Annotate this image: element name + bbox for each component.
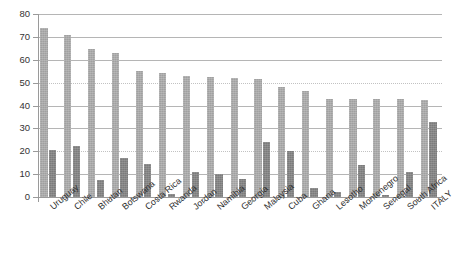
bar-group [231,14,247,197]
bar-series-1 [349,99,356,197]
bar-series-2 [310,188,317,197]
y-tick-label-0: 0 [0,192,30,202]
y-tick-mark-80 [33,14,38,15]
bar-group [326,14,342,197]
bar-series-1 [207,77,214,197]
y-tick-mark-30 [33,128,38,129]
x-tick-mark [276,198,277,202]
bar-group [373,14,389,197]
x-tick-mark [62,198,63,202]
y-tick-mark-60 [33,60,38,61]
bar-series-1 [254,79,261,197]
y-tick-mark-10 [33,174,38,175]
y-tick-label-50: 50 [0,78,30,88]
bar-series-1 [326,99,333,197]
bar-series-1 [183,76,190,197]
y-tick-label-20: 20 [0,146,30,156]
bar-series-1 [159,73,166,197]
bar-group [40,14,56,197]
bar-series-1 [421,100,428,197]
x-tick-mark [109,198,110,202]
bar-group [207,14,223,197]
bar-series-1 [373,99,380,197]
x-tick-mark [347,198,348,202]
x-tick-mark [204,198,205,202]
bar-group [88,14,104,197]
bar-group [349,14,365,197]
x-tick-mark [38,198,39,202]
bar-series-1 [88,49,95,197]
bar-series-1 [64,35,71,197]
x-tick-mark [371,198,372,202]
x-tick-mark [442,198,443,202]
bar-group [278,14,294,197]
bar-series-2 [97,180,104,197]
y-tick-label-70: 70 [0,32,30,42]
x-tick-mark [299,198,300,202]
x-axis-line [38,197,442,198]
x-tick-mark [228,198,229,202]
x-tick-mark [133,198,134,202]
bar-series-2 [49,150,56,197]
bar-group [64,14,80,197]
y-tick-mark-70 [33,37,38,38]
x-tick-mark [418,198,419,202]
y-tick-label-10: 10 [0,169,30,179]
x-tick-mark [323,198,324,202]
x-tick-mark [252,198,253,202]
bar-group [421,14,437,197]
x-tick-mark [181,198,182,202]
y-tick-mark-20 [33,151,38,152]
x-tick-mark [86,198,87,202]
bar-group [112,14,128,197]
y-tick-label-60: 60 [0,55,30,65]
bar-series-1 [40,28,47,197]
bar-group [159,14,175,197]
bar-group [254,14,270,197]
y-tick-label-40: 40 [0,101,30,111]
y-tick-mark-40 [33,106,38,107]
y-axis-line [38,14,39,198]
bar-series-1 [231,78,238,197]
bar-series-1 [112,53,119,197]
bar-series-1 [278,87,285,197]
x-tick-mark [395,198,396,202]
bar-group [397,14,413,197]
bar-series-1 [302,91,309,197]
bar-series-1 [136,71,143,197]
bar-group [136,14,152,197]
x-tick-mark [157,198,158,202]
y-tick-label-80: 80 [0,9,30,19]
y-tick-label-30: 30 [0,123,30,133]
bar-group [302,14,318,197]
y-tick-mark-50 [33,83,38,84]
bar-group [183,14,199,197]
plot-area [38,14,442,197]
